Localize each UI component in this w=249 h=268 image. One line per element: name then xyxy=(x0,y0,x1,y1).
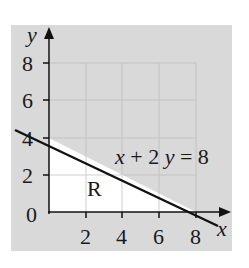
equation-eq: = 8 xyxy=(180,144,209,169)
equation-x: x xyxy=(114,144,125,169)
y-tick-4: 4 xyxy=(22,126,33,151)
equation-plus: + 2 xyxy=(130,144,159,169)
x-tick-6: 6 xyxy=(153,224,164,249)
region-label: R xyxy=(87,176,102,201)
y-tick-2: 2 xyxy=(22,163,33,188)
y-tick-6: 6 xyxy=(22,88,33,113)
x-tick-2: 2 xyxy=(80,224,91,249)
equation-label: x + 2 y = 8 xyxy=(114,144,209,169)
graph-figure: y x 8 6 4 2 0 2 4 6 8 x + 2 y = 8 R xyxy=(0,0,249,268)
x-tick-8: 8 xyxy=(190,224,201,249)
origin-label: 0 xyxy=(26,202,37,227)
y-tick-8: 8 xyxy=(22,51,33,76)
y-axis-label: y xyxy=(25,22,37,47)
equation-y: y xyxy=(163,144,175,169)
x-axis-label: x xyxy=(216,216,227,241)
x-tick-4: 4 xyxy=(116,224,127,249)
